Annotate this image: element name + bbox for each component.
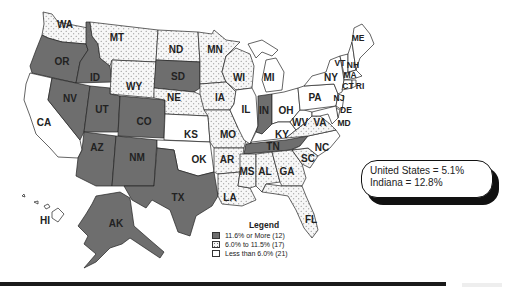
- state-label-CT: CT: [342, 81, 354, 91]
- state-label-CA: CA: [37, 117, 51, 128]
- state-label-NH: NH: [347, 60, 359, 70]
- legend-label-low: Less than 6.0% (21): [225, 250, 288, 257]
- state-label-NJ: NJ: [334, 93, 345, 103]
- state-label-VA: VA: [313, 117, 326, 128]
- state-label-WA: WA: [57, 19, 73, 30]
- legend-item-high: 11.6% or More (12): [212, 231, 302, 240]
- state-label-LA: LA: [223, 192, 236, 203]
- legend-label-high: 11.6% or More (12): [225, 232, 285, 239]
- state-label-AL: AL: [258, 166, 271, 177]
- state-label-IL: IL: [242, 104, 251, 115]
- state-label-SC: SC: [301, 153, 315, 164]
- legend: Legend 11.6% or More (12) 6.0% to 11.5% …: [212, 220, 302, 258]
- state-label-MI: MI: [263, 72, 274, 83]
- state-label-AZ: AZ: [90, 142, 103, 153]
- legend-label-mid: 6.0% to 11.5% (17): [225, 241, 284, 248]
- indiana-rate-text: Indiana = 12.8%: [370, 177, 492, 189]
- state-WY: [110, 60, 156, 98]
- callout-box: United States = 5.1% Indiana = 12.8%: [361, 160, 493, 198]
- state-label-TN: TN: [266, 141, 279, 152]
- state-label-IA: IA: [215, 92, 225, 103]
- legend-swatch-low: [212, 250, 220, 257]
- state-label-TX: TX: [172, 192, 185, 203]
- state-label-RI: RI: [356, 81, 365, 91]
- state-label-HI: HI: [40, 215, 50, 226]
- state-label-MS: MS: [240, 166, 255, 177]
- state-AK: [78, 192, 164, 268]
- state-label-NE: NE: [167, 92, 181, 103]
- state-label-ME: ME: [352, 33, 365, 43]
- state-label-IN: IN: [259, 105, 269, 116]
- state-label-OR: OR: [55, 56, 71, 67]
- state-label-NC: NC: [315, 142, 329, 153]
- state-label-MD: MD: [337, 118, 350, 128]
- state-label-WY: WY: [126, 81, 142, 92]
- state-label-NM: NM: [129, 152, 145, 163]
- legend-swatch-mid: [212, 241, 220, 248]
- legend-item-low: Less than 6.0% (21): [212, 249, 302, 258]
- state-label-AK: AK: [109, 218, 124, 229]
- state-label-WV: WV: [292, 117, 308, 128]
- state-label-KY: KY: [275, 129, 289, 140]
- state-label-NY: NY: [324, 72, 338, 83]
- state-label-DE: DE: [340, 105, 352, 115]
- state-label-GA: GA: [280, 166, 295, 177]
- us-rate-text: United States = 5.1%: [370, 165, 492, 177]
- state-label-MT: MT: [110, 32, 124, 43]
- bottom-rule-fragment: [462, 283, 502, 287]
- state-label-SD: SD: [171, 71, 185, 82]
- state-label-AR: AR: [220, 154, 235, 165]
- state-label-CO: CO: [137, 116, 152, 127]
- legend-item-mid: 6.0% to 11.5% (17): [212, 240, 302, 249]
- state-label-UT: UT: [95, 104, 108, 115]
- state-label-MA: MA: [343, 70, 356, 80]
- bottom-rule: [0, 282, 446, 286]
- legend-title: Legend: [226, 220, 302, 230]
- state-label-VT: VT: [335, 58, 347, 68]
- state-label-WI: WI: [233, 72, 245, 83]
- state-label-OH: OH: [279, 105, 294, 116]
- state-label-OK: OK: [192, 154, 208, 165]
- state-label-ND: ND: [169, 44, 183, 55]
- state-AZ: [76, 132, 116, 186]
- state-label-ID: ID: [90, 72, 100, 83]
- state-label-KS: KS: [184, 129, 198, 140]
- state-label-NV: NV: [63, 93, 77, 104]
- legend-swatch-high: [212, 232, 220, 239]
- state-label-FL: FL: [305, 214, 317, 225]
- state-label-MN: MN: [207, 44, 223, 55]
- summary-callout: United States = 5.1% Indiana = 12.8%: [361, 160, 496, 198]
- state-label-PA: PA: [308, 92, 321, 103]
- state-label-MO: MO: [220, 129, 236, 140]
